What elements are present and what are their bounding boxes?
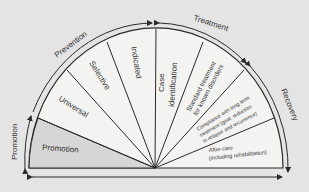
arc-label-promotion: Promotion: [10, 124, 19, 160]
segment-case-identification-line1: Case: [157, 73, 166, 92]
mental-health-intervention-spectrum-diagram: Promotion Prevention Treatment Recovery …: [0, 0, 309, 192]
arc-label-recovery: Recovery: [279, 87, 300, 122]
